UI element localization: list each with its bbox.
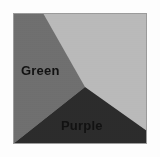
purple-region-label: Purple (61, 118, 103, 133)
green-region-label: Green (21, 63, 60, 78)
figure-frame: Green Purple (13, 13, 147, 144)
triangle-partition-figure: Green Purple (13, 13, 147, 144)
diagram-root: Green Purple (0, 0, 160, 157)
